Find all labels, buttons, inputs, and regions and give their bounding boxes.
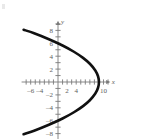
y-tick-label-2: 2 <box>50 66 54 74</box>
parabola-graph-figure: –6–42410 8642–2–4–6–8 x y <box>0 0 142 139</box>
y-tick-label--8: –8 <box>45 130 54 138</box>
x-tick-label-4: 4 <box>74 87 78 95</box>
x-tick-label-10: 10 <box>100 87 108 95</box>
coordinate-plane-svg: –6–42410 8642–2–4–6–8 x y <box>0 0 142 139</box>
y-tick-label--4: –4 <box>45 104 54 112</box>
x-tick-label--6: –6 <box>26 87 35 95</box>
y-axis-label: y <box>60 18 65 26</box>
y-tick-label--2: –2 <box>45 91 54 99</box>
x-tick-label--4: –4 <box>35 87 44 95</box>
x-axis-label: x <box>111 78 116 86</box>
y-tick-label-4: 4 <box>50 53 54 61</box>
y-tick-label-8: 8 <box>50 27 54 35</box>
x-tick-label-2: 2 <box>65 87 69 95</box>
